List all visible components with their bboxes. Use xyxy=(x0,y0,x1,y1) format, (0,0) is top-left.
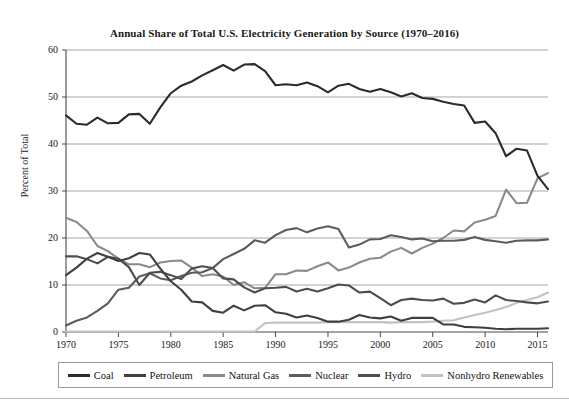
legend-swatch-icon xyxy=(358,374,380,377)
chart-legend: CoalPetroleumNatural GasNuclearHydroNonh… xyxy=(58,362,553,388)
x-tick-label: 2015 xyxy=(518,340,558,350)
series-line-natural-gas xyxy=(66,173,548,288)
x-tick-label: 1985 xyxy=(203,340,243,350)
legend-item-petroleum[interactable]: Petroleum xyxy=(124,370,193,381)
legend-swatch-icon xyxy=(68,374,90,377)
legend-swatch-icon xyxy=(124,374,146,377)
legend-item-label: Nonhydro Renewables xyxy=(447,370,543,381)
y-tick-label: 10 xyxy=(32,280,58,290)
chart-figure: Annual Share of Total U.S. Electricity G… xyxy=(0,0,569,411)
legend-item-label: Petroleum xyxy=(150,370,193,381)
y-tick-label: 50 xyxy=(32,92,58,102)
y-tick-label: 30 xyxy=(32,186,58,196)
legend-item-label: Coal xyxy=(94,370,114,381)
legend-swatch-icon xyxy=(289,374,311,377)
legend-swatch-icon xyxy=(421,374,443,377)
legend-swatch-icon xyxy=(203,374,225,377)
series-line-coal xyxy=(66,64,548,189)
legend-item-nonhydro-renewables[interactable]: Nonhydro Renewables xyxy=(421,370,543,381)
y-tick-label: 60 xyxy=(32,45,58,55)
x-tick-label: 1970 xyxy=(46,340,86,350)
y-tick-label: 0 xyxy=(32,327,58,337)
legend-item-label: Hydro xyxy=(384,370,411,381)
legend-item-natural-gas[interactable]: Natural Gas xyxy=(203,370,279,381)
legend-item-coal[interactable]: Coal xyxy=(68,370,114,381)
legend-item-nuclear[interactable]: Nuclear xyxy=(289,370,348,381)
x-tick-label: 1980 xyxy=(151,340,191,350)
x-tick-label: 1995 xyxy=(308,340,348,350)
x-tick-label: 2010 xyxy=(465,340,505,350)
legend-item-label: Natural Gas xyxy=(229,370,279,381)
x-tick-label: 1990 xyxy=(256,340,296,350)
series-line-nuclear xyxy=(66,226,548,325)
y-tick-label: 40 xyxy=(32,139,58,149)
plot-area: Percent of Total 6050403020100 197019751… xyxy=(0,0,569,411)
x-tick-label: 2000 xyxy=(360,340,400,350)
x-tick-label: 2005 xyxy=(413,340,453,350)
y-tick-label: 20 xyxy=(32,233,58,243)
legend-item-label: Nuclear xyxy=(315,370,348,381)
footer-divider xyxy=(0,398,569,399)
series-line-nonhydro-renewables xyxy=(66,293,548,332)
legend-item-hydro[interactable]: Hydro xyxy=(358,370,411,381)
x-tick-label: 1975 xyxy=(98,340,138,350)
